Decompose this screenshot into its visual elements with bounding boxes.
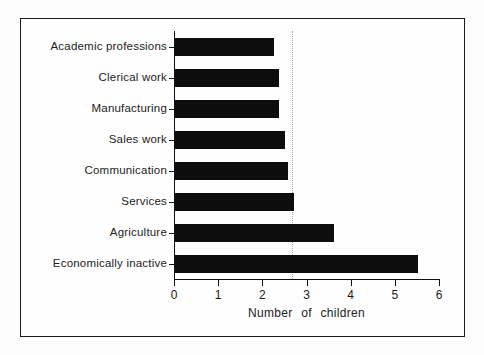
x-tick-label-4: 4 <box>347 288 354 302</box>
plot-area <box>174 31 440 280</box>
x-tick-5 <box>395 280 396 286</box>
category-label-sales-work: Sales work <box>109 133 167 145</box>
bar-economically-inactive <box>175 255 418 273</box>
bar-sales-work <box>175 131 285 149</box>
reference-line <box>292 31 293 279</box>
x-axis-title: Number of children <box>174 306 439 320</box>
bar-communication <box>175 162 288 180</box>
category-label-services: Services <box>121 195 167 207</box>
x-tick-label-5: 5 <box>391 288 398 302</box>
x-tick-label-0: 0 <box>171 288 178 302</box>
x-tick-2 <box>262 280 263 286</box>
x-tick-label-6: 6 <box>436 288 443 302</box>
category-label-agriculture: Agriculture <box>110 226 167 238</box>
x-tick-1 <box>218 280 219 286</box>
y-axis-labels: Academic professionsClerical workManufac… <box>21 31 167 279</box>
category-label-communication: Communication <box>85 164 168 176</box>
x-tick-4 <box>351 280 352 286</box>
category-label-economically-inactive: Economically inactive <box>53 257 167 269</box>
x-tick-label-3: 3 <box>303 288 310 302</box>
figure: Academic professionsClerical workManufac… <box>0 0 484 355</box>
x-tick-label-2: 2 <box>259 288 266 302</box>
category-label-clerical-work: Clerical work <box>99 71 167 83</box>
category-label-manufacturing: Manufacturing <box>92 102 167 114</box>
x-tick-3 <box>307 280 308 286</box>
chart-frame: Academic professionsClerical workManufac… <box>20 18 465 337</box>
bar-clerical-work <box>175 69 279 87</box>
bar-services <box>175 193 294 211</box>
x-tick-label-1: 1 <box>215 288 222 302</box>
x-tick-0 <box>174 280 175 286</box>
bar-manufacturing <box>175 100 279 118</box>
bar-agriculture <box>175 224 334 242</box>
category-label-academic-professions: Academic professions <box>51 40 168 52</box>
x-tick-6 <box>439 280 440 286</box>
bar-academic-professions <box>175 38 274 56</box>
